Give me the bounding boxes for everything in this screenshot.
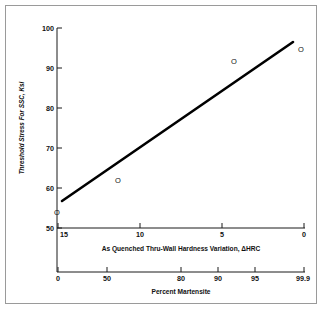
data-point-markers: O O O O [54,45,304,217]
martensite-tick-label-80: 80 [177,274,185,283]
martensite-tick-label-50: 50 [103,274,111,283]
y-axis-ticks [57,28,62,228]
y-tick-label-50: 50 [46,224,54,233]
martensite-axis-title: Percent Martensite [152,288,211,295]
hardness-tick-label-10: 10 [136,230,144,239]
martensite-tick-label-99-9: 99.9 [296,274,310,283]
hardness-tick-label-5: 5 [220,230,224,239]
hardness-tick-label-0: 0 [302,230,306,239]
hardness-axis-title: As Quenched Thru-Wall Hardness Variation… [102,245,261,253]
y-tick-label-80: 80 [46,104,54,113]
data-point-1: O [54,208,60,217]
data-point-4: O [298,45,304,54]
best-fit-line [62,42,293,201]
y-tick-label-60: 60 [46,184,54,193]
martensite-tick-label-95: 95 [251,274,259,283]
martensite-tick-label-90: 90 [214,274,222,283]
y-axis-title: Threshold Stress For SSC, Ksi [18,81,26,174]
hardness-tick-label-15: 15 [60,230,68,239]
y-tick-label-70: 70 [46,144,54,153]
threshold-stress-chart: 100 90 80 70 60 50 Threshold Stress For … [0,0,322,309]
martensite-tick-label-0: 0 [56,274,60,283]
y-tick-label-100: 100 [42,24,54,33]
martensite-axis-ticks [58,267,304,272]
figure-container: 100 90 80 70 60 50 Threshold Stress For … [0,0,322,309]
data-point-3: O [231,57,237,66]
y-tick-label-90: 90 [46,64,54,73]
data-point-2: O [115,176,121,185]
hardness-axis-ticks [58,223,304,228]
